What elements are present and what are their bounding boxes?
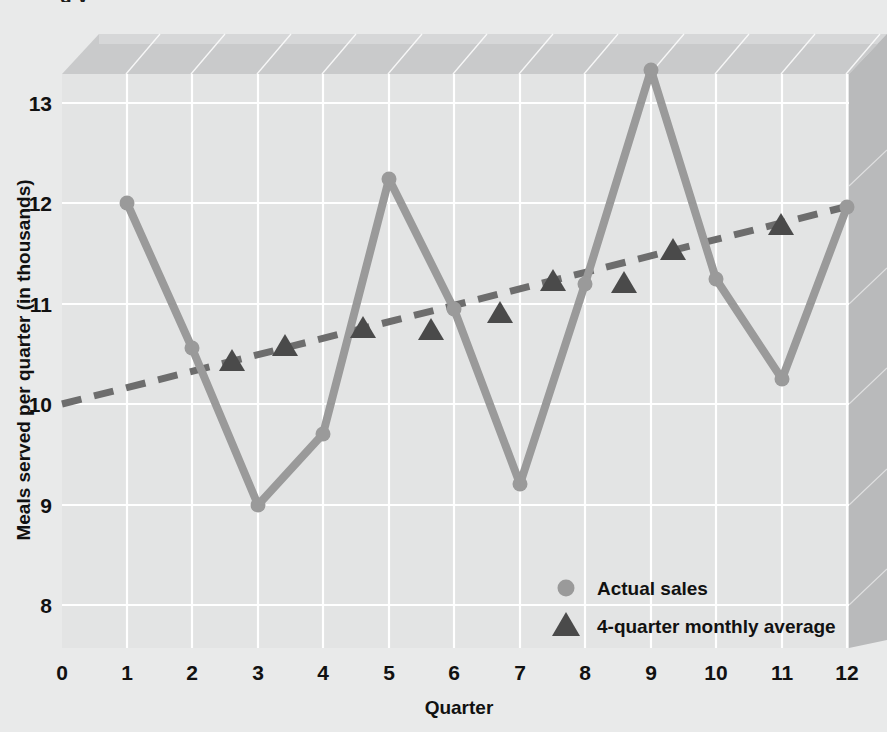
data-point-q10 [709,272,724,287]
x-tick-3: 3 [252,661,264,684]
x-tick-0: 0 [56,661,68,684]
right-slab [849,34,887,648]
line-chart-svg: 13 12 11 10 9 8 0 1 2 3 4 5 6 7 8 9 10 1… [0,0,887,732]
data-point-q8 [578,277,593,292]
x-tick-9: 9 [645,661,657,684]
plot-face [62,74,849,648]
data-point-q3 [251,498,266,513]
data-point-q11 [775,372,790,387]
x-tick-1: 1 [121,661,133,684]
x-tick-2: 2 [186,661,198,684]
y-axis-title: Meals served per quarter (in thousands) [13,179,34,540]
x-axis-tick-labels: 0 1 2 3 4 5 6 7 8 9 10 11 12 [56,661,859,684]
data-point-q7 [513,477,528,492]
cropped-title-text: g y [60,0,88,2]
legend-circle-icon [558,580,575,597]
chart-figure: g y [0,0,887,732]
x-tick-12: 12 [835,661,858,684]
x-axis-title: Quarter [425,697,494,718]
y-tick-8: 8 [40,594,52,617]
data-point-q12 [840,200,855,215]
x-tick-11: 11 [771,661,794,684]
y-tick-13: 13 [29,92,52,115]
legend-label-actual-sales: Actual sales [597,578,708,599]
data-point-q4 [316,427,331,442]
x-tick-7: 7 [514,661,526,684]
x-tick-6: 6 [448,661,460,684]
y-tick-9: 9 [40,494,52,517]
data-point-q1 [120,196,135,211]
data-point-q2 [185,341,200,356]
x-tick-10: 10 [704,661,727,684]
x-tick-5: 5 [383,661,395,684]
data-point-q5 [382,172,397,187]
data-point-q9 [644,63,659,78]
x-tick-8: 8 [579,661,591,684]
x-tick-4: 4 [317,661,329,684]
data-point-q6 [447,302,462,317]
legend-label-moving-average: 4-quarter monthly average [597,616,836,637]
